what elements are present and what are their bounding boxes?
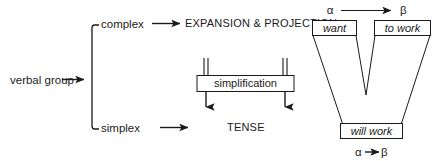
branch-label-complex: complex (101, 18, 144, 30)
diagram-canvas: verbal group complex EXPANSION & PROJECT… (0, 0, 438, 161)
connector-outer-right (399, 36, 430, 132)
connector-outer-left (313, 36, 345, 132)
example-box-want-label: want (323, 22, 347, 34)
notation-bottom-alpha: α (355, 146, 362, 158)
example-box-will-work-label: will work (351, 125, 393, 137)
notation-bottom-beta: β (381, 146, 388, 158)
example-box-to-work-label: to work (385, 22, 421, 34)
verbal-group-diagram: verbal group complex EXPANSION & PROJECT… (0, 0, 438, 161)
outcome-label-tense: TENSE (227, 121, 265, 133)
simplification-label: simplification (214, 77, 277, 89)
connector-inner-right (366, 36, 375, 96)
notation-top-beta: β (400, 4, 407, 16)
branch-label-simplex: simplex (101, 122, 140, 134)
connector-inner-left (356, 36, 366, 96)
system-brace (92, 25, 99, 129)
notation-top-alpha: α (327, 4, 334, 16)
